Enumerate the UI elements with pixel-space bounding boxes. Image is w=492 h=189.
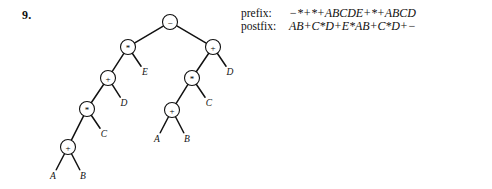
tree-edge [135, 26, 163, 43]
tree-leaf-label: A [153, 134, 160, 144]
tree-edge [132, 54, 141, 67]
tree-edge [72, 154, 80, 170]
tree-leaf-label: D [226, 67, 234, 77]
tree-edge [91, 116, 100, 129]
tree-node-operator: + [65, 143, 70, 153]
tree-edge [176, 117, 184, 133]
prefix-row: prefix: −*+*+ABCDE+*+ABCD [241, 6, 489, 19]
tree-node: + [206, 40, 221, 55]
postfix-row: postfix: AB+C*D+E*AB+C*D+− [241, 19, 489, 32]
tree-leaf-label: D [120, 98, 128, 108]
tree-edge [160, 117, 168, 133]
tree-edge [112, 85, 120, 97]
tree-leaf-label: B [80, 171, 86, 181]
tree-node: * [185, 71, 200, 86]
tree-node-operator: * [85, 105, 90, 115]
notation-block: prefix: −*+*+ABCDE+*+ABCD postfix: AB+C*… [241, 6, 489, 32]
tree-node-operator: + [105, 74, 110, 84]
figure-page: 9. −*+*++*+ EDCABDCAB prefix: −*+*+ABCDE… [0, 0, 492, 189]
tree-node-operator: * [126, 43, 131, 53]
tree-leaf-label: B [184, 134, 190, 144]
tree-edge-layer [56, 26, 226, 170]
tree-edge [177, 26, 206, 43]
tree-node: * [121, 40, 136, 55]
tree-node-operator: + [169, 106, 174, 116]
postfix-expression: AB+C*D+E*AB+C*D+− [289, 19, 416, 34]
tree-node-operator: * [190, 74, 195, 84]
tree-leaf-label: C [206, 98, 213, 108]
tree-node: + [165, 103, 180, 118]
tree-edge [176, 85, 188, 104]
tree-edge [112, 54, 123, 72]
tree-node-operator: + [210, 43, 215, 53]
tree-edge [72, 116, 84, 140]
tree-leaf-label: A [49, 171, 56, 181]
tree-edge [196, 54, 208, 72]
tree-node-operator: − [167, 18, 172, 28]
tree-node: * [80, 102, 95, 117]
tree-edge [196, 85, 205, 98]
tree-node-layer: −*+*++*+ [61, 15, 221, 155]
tree-node: − [163, 15, 178, 30]
tree-edge [217, 54, 226, 67]
tree-leaf-label: C [101, 129, 108, 139]
tree-edge [91, 85, 103, 103]
prefix-label: prefix: [241, 7, 289, 19]
tree-edge [56, 154, 64, 170]
tree-node: + [61, 140, 76, 155]
tree-node: + [101, 71, 116, 86]
tree-leaf-label: E [141, 67, 148, 77]
postfix-label: postfix: [241, 20, 289, 32]
